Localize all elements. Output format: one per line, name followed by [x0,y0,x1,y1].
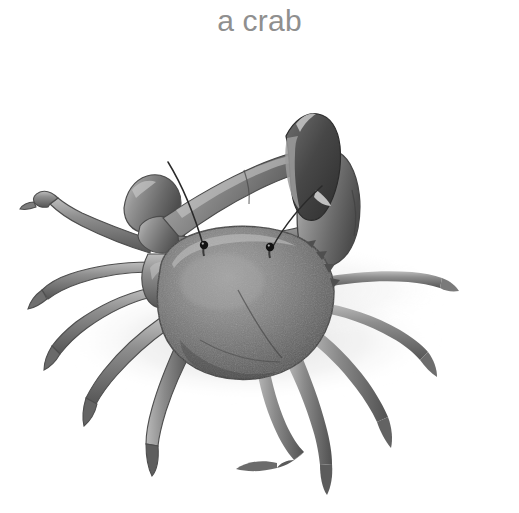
image-caption: a crab [0,4,519,38]
image-canvas: a crab [0,0,519,513]
crab-illustration [0,40,519,513]
